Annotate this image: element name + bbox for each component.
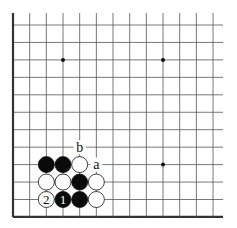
star-point-icon	[61, 58, 65, 62]
move-number: 2	[43, 192, 50, 207]
go-board-diagram: 21 ab	[0, 0, 237, 228]
white-stone-icon	[55, 174, 71, 190]
move-number: 1	[60, 192, 67, 207]
black-stone-icon	[72, 192, 88, 208]
white-stone-icon	[88, 174, 104, 190]
white-stone-icon	[72, 157, 88, 173]
star-point-icon	[161, 58, 165, 62]
point-label-b: b	[76, 140, 83, 155]
white-stone-icon	[88, 192, 104, 208]
white-stone-icon	[38, 174, 54, 190]
black-stone-icon	[72, 174, 88, 190]
point-label-a: a	[93, 157, 100, 172]
black-stone-icon	[55, 157, 71, 173]
black-stone-icon	[38, 157, 54, 173]
star-point-icon	[161, 163, 165, 167]
